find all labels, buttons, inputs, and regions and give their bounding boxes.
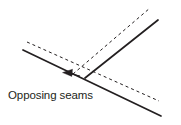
- diagram-canvas: Opposing seams: [0, 0, 181, 125]
- ascending-seam-offset-line: [73, 8, 150, 74]
- opposing-seams-figure: Opposing seams: [0, 0, 181, 125]
- caption-label: Opposing seams: [8, 89, 93, 101]
- descending-seam-line: [23, 50, 161, 116]
- ascending-seam-line: [85, 20, 158, 78]
